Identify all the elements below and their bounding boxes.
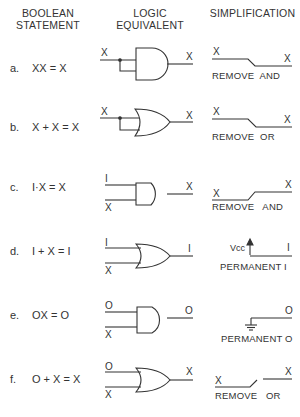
output-label: I — [188, 243, 191, 254]
simp-left-label: X — [213, 46, 220, 57]
simp-caption: PERMANENT O — [221, 333, 293, 344]
input-label: O — [105, 300, 113, 311]
simp-right-label: X — [284, 114, 291, 125]
output-label: X — [186, 366, 193, 377]
simp-caption: PERMANENT I — [220, 261, 287, 272]
simp-caption: REMOVE AND — [212, 201, 283, 212]
simp-caption: REMOVE OR — [212, 131, 275, 142]
input-label: X — [101, 47, 108, 58]
input-label: I — [105, 237, 108, 248]
input-label: X — [105, 265, 112, 276]
simp-right-label: X — [284, 53, 291, 64]
output-label: O — [185, 305, 193, 316]
ground-icon — [245, 318, 292, 330]
simplification-vcc-d — [247, 239, 292, 256]
simp-caption: REMOVE OR — [215, 390, 281, 401]
and-gate-icon — [105, 183, 193, 205]
input-label: X — [105, 329, 112, 340]
simplification-wire-a — [212, 59, 292, 66]
or-gate-icon — [105, 368, 193, 392]
simp-caption: REMOVE AND — [212, 70, 280, 81]
input-label: X — [105, 389, 112, 400]
input-label: X — [101, 106, 108, 117]
output-label: X — [186, 181, 193, 192]
simp-right-label: X — [285, 366, 292, 377]
output-label: X — [186, 51, 193, 62]
and-gate-icon — [100, 48, 193, 80]
simplification-wire-f — [215, 379, 292, 387]
simp-right-label: I — [287, 242, 290, 253]
input-label: X — [105, 202, 112, 213]
vcc-label: Vcc — [230, 243, 245, 253]
and-gate-icon — [105, 307, 193, 333]
simplification-wire-b — [212, 119, 292, 127]
simp-left-label: X — [213, 188, 220, 199]
simp-left-label: X — [213, 106, 220, 117]
simplification-wire-c — [212, 192, 292, 200]
input-label: I — [105, 173, 108, 184]
simp-left-label: X — [215, 375, 222, 386]
simp-right-label: X — [285, 179, 292, 190]
input-label: O — [105, 361, 113, 372]
or-gate-icon — [105, 244, 193, 268]
or-gate-icon — [100, 109, 193, 136]
output-label: X — [186, 110, 193, 121]
simp-right-label: O — [285, 305, 293, 316]
